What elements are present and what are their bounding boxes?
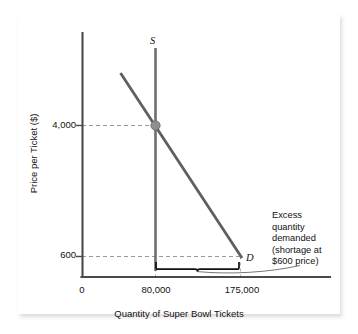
excess-quantity-brace: [156, 262, 239, 271]
x-tick-label-0: 0: [68, 284, 96, 296]
annotation-line-1: Excess: [272, 210, 356, 222]
annotation-line-4: (shortage at: [272, 245, 356, 257]
x-tick-label-80000: 80,000: [128, 284, 184, 296]
x-axis-title: Quantity of Super Bowl Tickets: [0, 308, 358, 319]
demand-curve: [121, 73, 243, 258]
y-tick-label-600: 600: [34, 249, 76, 261]
excess-quantity-annotation: Excess quantity demanded (shortage at $6…: [272, 210, 356, 268]
annotation-line-2: quantity: [272, 222, 356, 234]
x-tick-label-175000: 175,000: [212, 284, 272, 296]
equilibrium-point-marker: [151, 121, 160, 130]
supply-curve-label: S: [150, 35, 155, 46]
supply-demand-figure: Price per Ticket ($) Quantity of Super B…: [0, 0, 358, 334]
y-tick-label-4000: 4,000: [34, 119, 76, 131]
y-axis-title: Price per Ticket ($): [28, 99, 39, 209]
annotation-line-5: $600 price): [272, 256, 356, 268]
annotation-line-3: demanded: [272, 233, 356, 245]
demand-curve-label: D: [246, 252, 254, 263]
